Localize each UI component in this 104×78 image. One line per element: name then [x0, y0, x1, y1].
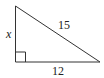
label-horizontal-leg: 12 [52, 64, 64, 78]
right-triangle-diagram: x 15 12 [0, 0, 104, 78]
right-angle-marker [16, 52, 26, 62]
triangle [16, 6, 101, 62]
label-hypotenuse: 15 [58, 18, 70, 32]
label-vertical-leg: x [5, 27, 12, 41]
